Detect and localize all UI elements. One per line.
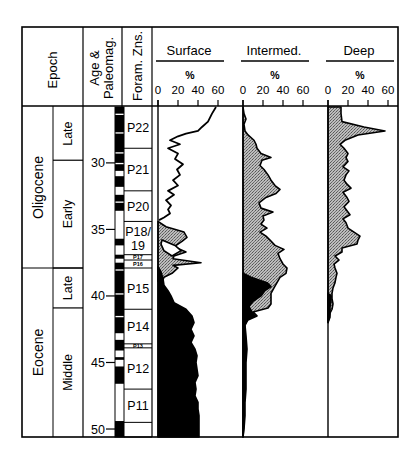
paleomag-normal-chron	[115, 154, 124, 163]
x-tick-label: 0	[155, 84, 161, 96]
axis-unit-label: %	[270, 69, 280, 81]
stratigraphic-chart: Epoch Age & Paleomag. Foram. Zns. Oligoc…	[0, 0, 420, 458]
age-header-line2: Paleomag.	[101, 37, 116, 99]
header-labels: Epoch Age & Paleomag. Foram. Zns.	[45, 31, 145, 101]
paleomag-normal-chron	[115, 317, 124, 333]
foram-header: Foram. Zns.	[130, 31, 145, 101]
foram-zone-label: P14	[127, 320, 149, 334]
foram-zone-label: P21	[127, 163, 149, 177]
age-tick-label: 45	[91, 356, 105, 370]
paleomag-normal-chron	[115, 176, 124, 187]
foram-zone-label: P17	[133, 254, 143, 260]
foram-zone-label: P16	[133, 261, 143, 267]
paleomag-normal-chron	[115, 421, 124, 437]
x-tick-label: 20	[257, 84, 270, 96]
foram-zone-label: P18/	[125, 225, 151, 239]
foram-zone-label: P22	[127, 121, 149, 135]
foram-zone-label: P11	[127, 399, 148, 413]
foram-zone-label: P12	[127, 362, 149, 376]
subepoch-label: Early	[61, 199, 75, 228]
panel-intermed: Intermed.%0204060	[240, 43, 310, 437]
age-tick-label: 50	[91, 423, 105, 437]
paleomag-normal-chron	[115, 164, 124, 171]
paleomag-normal-chron	[115, 366, 124, 383]
paleomag-normal-chron	[115, 271, 124, 294]
x-tick-label: 40	[277, 84, 290, 96]
foram-zone-label: P20	[127, 200, 149, 214]
foram-zone-label: 19	[131, 239, 145, 253]
series-area-stippled	[328, 107, 385, 323]
epoch-header: Epoch	[45, 52, 60, 89]
series-line	[159, 107, 216, 220]
paleomag-normal-chron	[115, 134, 124, 153]
x-tick-label: 60	[382, 84, 395, 96]
panel-title: Deep	[343, 43, 374, 58]
axis-unit-label: %	[355, 69, 365, 81]
x-tick-label: 40	[192, 84, 205, 96]
paleomag-normal-chron	[115, 203, 124, 211]
paleomag-normal-chron	[115, 239, 124, 246]
x-tick-label: 40	[362, 84, 375, 96]
epoch-label: Oligocene	[30, 156, 46, 219]
subepoch-label: Middle	[61, 354, 75, 391]
paleomag-normal-chron	[115, 195, 124, 202]
paleomag-normal-chron	[115, 263, 124, 270]
age-header-line1: Age &	[87, 50, 102, 86]
x-tick-label: 0	[240, 84, 246, 96]
panel-surface: Surface%0204060	[155, 43, 225, 437]
panel-deep: Deep%0204060	[325, 43, 395, 437]
paleomag-normal-chron	[115, 295, 124, 316]
age-tick-label: 35	[91, 223, 105, 237]
series-area-stippled	[243, 107, 287, 437]
foram-zone-label: P15	[127, 282, 149, 296]
series-area-solid	[158, 267, 199, 437]
age-tick-label: 40	[91, 289, 105, 303]
x-tick-label: 20	[342, 84, 355, 96]
paleomag-normal-chron	[115, 357, 124, 360]
subepoch-label: Late	[61, 121, 75, 145]
paleomag-normal-chron	[115, 107, 124, 114]
panel-title: Surface	[167, 43, 212, 58]
x-tick-label: 0	[325, 84, 331, 96]
x-tick-label: 60	[212, 84, 225, 96]
paleomag-normal-chron	[115, 255, 124, 259]
age-tick-label: 30	[91, 156, 105, 170]
x-tick-label: 60	[297, 84, 310, 96]
axis-unit-label: %	[185, 69, 195, 81]
paleomag-normal-chron	[115, 115, 124, 132]
paleomag-normal-chron	[115, 340, 124, 351]
subepoch-label: Late	[61, 276, 75, 300]
x-tick-label: 20	[172, 84, 185, 96]
epoch-label: Eocene	[30, 329, 46, 377]
panel-title: Intermed.	[247, 43, 302, 58]
foram-zone-label: P13	[133, 343, 143, 349]
